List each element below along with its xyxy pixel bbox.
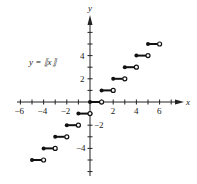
- y-tick-label: 4: [80, 51, 85, 61]
- closed-dot-icon: [100, 88, 104, 92]
- x-tick-label: −6: [14, 106, 24, 116]
- x-tick-label: 6: [157, 106, 162, 116]
- open-dot-icon: [146, 54, 150, 58]
- x-tick-label: 4: [134, 106, 139, 116]
- step-segment: [111, 77, 127, 81]
- step-function-graph: −6−4−224642−2−4 y = ⟦x⟧ x y: [0, 0, 197, 184]
- closed-dot-icon: [65, 123, 69, 127]
- step-segment: [134, 54, 150, 58]
- open-dot-icon: [123, 77, 127, 81]
- y-tick-label: −4: [76, 143, 86, 153]
- step-segment: [30, 158, 46, 162]
- y-axis-arrow-icon: [88, 15, 93, 25]
- x-axis-label: x: [185, 97, 190, 107]
- open-dot-icon: [134, 65, 138, 69]
- step-segment: [88, 100, 104, 104]
- y-tick-label: −2: [94, 120, 104, 130]
- closed-dot-icon: [53, 135, 57, 139]
- x-axis-arrow-icon: [175, 100, 184, 105]
- open-dot-icon: [76, 123, 80, 127]
- step-segment: [76, 112, 92, 116]
- closed-dot-icon: [111, 77, 115, 81]
- open-dot-icon: [158, 42, 162, 46]
- open-dot-icon: [65, 135, 69, 139]
- closed-dot-icon: [30, 158, 34, 162]
- closed-dot-icon: [123, 65, 127, 69]
- step-segment: [100, 88, 116, 92]
- open-dot-icon: [53, 146, 57, 150]
- axes: −6−4−224642−2−4: [14, 15, 184, 176]
- y-tick-label: 2: [80, 74, 85, 84]
- open-dot-icon: [100, 100, 104, 104]
- step-segment: [146, 42, 162, 46]
- step-segment: [65, 123, 81, 127]
- step-segment: [53, 135, 69, 139]
- closed-dot-icon: [88, 100, 92, 104]
- step-segment: [42, 146, 58, 150]
- closed-dot-icon: [146, 42, 150, 46]
- open-dot-icon: [111, 88, 115, 92]
- closed-dot-icon: [76, 112, 80, 116]
- open-dot-icon: [88, 112, 92, 116]
- function-label: y = ⟦x⟧: [28, 57, 58, 67]
- x-tick-label: −2: [61, 106, 71, 116]
- y-axis-label: y: [87, 3, 92, 13]
- step-segment: [123, 65, 139, 69]
- x-tick-label: −4: [38, 106, 48, 116]
- closed-dot-icon: [134, 54, 138, 58]
- open-dot-icon: [42, 158, 46, 162]
- closed-dot-icon: [42, 146, 46, 150]
- x-tick-label: 2: [111, 106, 116, 116]
